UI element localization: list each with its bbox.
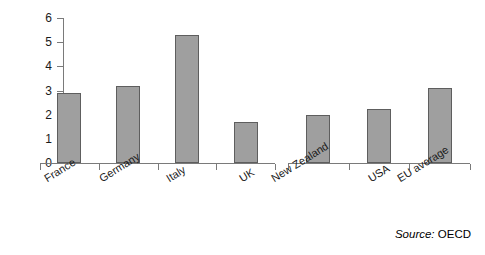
bar	[367, 109, 391, 163]
y-axis-tick-label: 6	[0, 12, 52, 24]
source-value: OECD	[438, 228, 471, 240]
y-axis-tick-label-text: 6	[4, 12, 52, 24]
x-axis-tick	[349, 164, 350, 170]
y-axis-tick-label: 4	[0, 60, 52, 72]
x-axis-tick	[99, 164, 100, 170]
y-axis-tick-label: 5	[0, 36, 52, 48]
x-axis-tick	[216, 164, 217, 170]
source-note: Source: OECD	[395, 228, 471, 241]
y-axis-tick	[57, 42, 63, 43]
y-axis-tick-label-text: 3	[4, 85, 52, 97]
plot-area: 0123456 FranceGermanyItalyUKNew ZealandU…	[0, 0, 485, 255]
y-axis-tick-label: 1	[0, 133, 52, 145]
source-label: Source:	[395, 228, 435, 240]
x-axis-tick	[470, 164, 471, 170]
y-axis-tick-label: 2	[0, 109, 52, 121]
x-axis-tick	[158, 164, 159, 170]
x-axis-tick	[40, 164, 41, 170]
y-axis-tick-label-text: 1	[4, 133, 52, 145]
y-axis-tick-label-text: 2	[4, 109, 52, 121]
y-axis-tick	[57, 91, 63, 92]
bar-chart: 0123456 FranceGermanyItalyUKNew ZealandU…	[0, 0, 485, 255]
bar	[57, 93, 81, 163]
bar	[234, 122, 258, 163]
x-axis-segment-right	[288, 163, 470, 164]
y-axis-tick	[57, 66, 63, 67]
y-axis-tick-label-text: 5	[4, 36, 52, 48]
x-axis-category-label: USA	[366, 162, 392, 184]
y-axis-tick	[57, 18, 63, 19]
y-axis-tick-label-text: 4	[4, 60, 52, 72]
bar	[175, 35, 199, 163]
y-axis-tick-label: 3	[0, 85, 52, 97]
x-axis-category-label: UK	[237, 166, 256, 184]
x-axis-category-label: Italy	[164, 163, 187, 184]
